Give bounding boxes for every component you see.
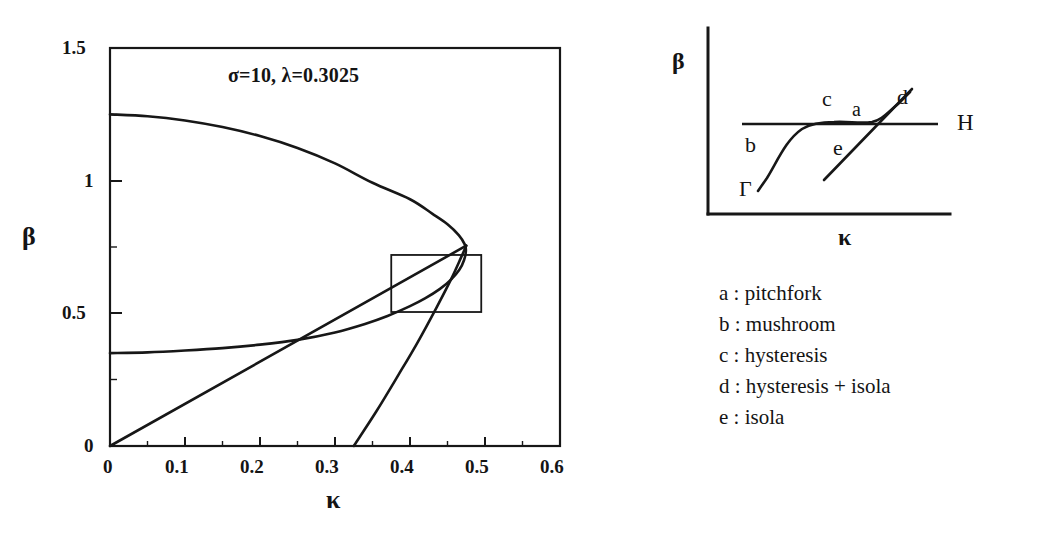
legend-item-c: c : hysteresis [719,340,1019,371]
curve-upper-fold-branch [110,114,466,353]
figure-page: 0 0.1 0.2 0.3 0.4 0.5 0.6 0 0.5 1 1.5 β … [0,0,1042,552]
curve-steep-branch [354,246,467,446]
schematic-canvas [620,0,1042,552]
x-tick-label-0: 0 [103,456,113,478]
y-tick-label-3: 1.5 [62,37,86,59]
y-tick-label-1: 0.5 [62,302,86,324]
y-axis-title: β [22,222,36,252]
schematic-y-axis-title: β [672,48,685,75]
plot-frame [110,48,560,446]
curve-group [110,114,466,446]
schematic-label-H: H [957,110,974,136]
x-tick-label-1: 0.1 [165,456,189,478]
schematic-region-label-a: a [852,98,861,121]
x-tick-label-3: 0.3 [315,456,339,478]
legend-item-d: d : hysteresis + isola [719,371,1019,402]
schematic-region-label-c: c [822,86,832,112]
schematic-label-gamma: Γ [739,176,752,202]
legend-item-b: b : mushroom [719,309,1019,340]
x-major-ticks [110,437,560,446]
legend-item-e: e : isola [719,402,1019,433]
x-tick-label-6: 0.6 [540,456,564,478]
y-tick-label-0: 0 [84,435,94,457]
schematic-panel: β κ H Γ c a d b e a : pitchfork b : mush… [620,0,1042,552]
x-axis-title: κ [326,485,340,515]
schematic-x-axis-title: κ [838,224,851,251]
curve-lower-straight-branch [110,246,466,446]
main-plot-panel: 0 0.1 0.2 0.3 0.4 0.5 0.6 0 0.5 1 1.5 β … [0,0,620,552]
x-tick-label-4: 0.4 [390,456,414,478]
schematic-region-label-e: e [833,135,843,161]
legend-item-a: a : pitchfork [719,278,1019,309]
schematic-region-label-d: d [897,84,908,110]
plot-parameter-annotation: σ=10, λ=0.3025 [228,64,359,87]
x-tick-label-5: 0.5 [465,456,489,478]
legend-list: a : pitchfork b : mushroom c : hysteresi… [719,278,1019,433]
schematic-region-label-b: b [745,132,756,158]
y-tick-label-2: 1 [84,170,94,192]
x-tick-label-2: 0.2 [240,456,264,478]
